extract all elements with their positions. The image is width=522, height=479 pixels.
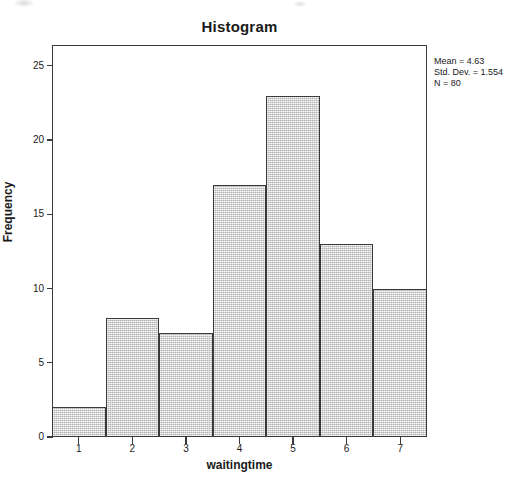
histogram-bar — [266, 96, 320, 438]
y-tick-mark — [47, 65, 53, 66]
plot-area — [52, 45, 427, 437]
x-tick-label: 5 — [281, 443, 305, 454]
y-tick-label: 10 — [4, 283, 44, 294]
y-tick-label: 0 — [4, 431, 44, 442]
x-tick-label: 3 — [174, 443, 198, 454]
x-tick-label: 2 — [120, 443, 144, 454]
x-tick-label: 6 — [335, 443, 359, 454]
stat-std-dev: Std. Dev. = 1.554 — [434, 67, 503, 78]
histogram-bar — [52, 407, 106, 437]
histogram-bar — [159, 333, 213, 437]
histogram-bar — [373, 289, 427, 437]
histogram-bar — [320, 244, 374, 437]
y-tick-label: 5 — [4, 357, 44, 368]
scan-artifact — [0, 0, 522, 14]
x-axis-title: waitingtime — [52, 458, 427, 472]
chart-title: Histogram — [52, 18, 427, 35]
x-tick-label: 1 — [67, 443, 91, 454]
x-tick-label: 4 — [228, 443, 252, 454]
stat-n: N = 80 — [434, 78, 503, 89]
statistics-annotation: Mean = 4.63 Std. Dev. = 1.554 N = 80 — [434, 56, 503, 89]
histogram-bar — [213, 185, 267, 437]
histogram-figure: Histogram 0510152025 Frequency 1234567 w… — [0, 0, 522, 479]
x-tick-label: 7 — [388, 443, 412, 454]
y-tick-mark — [47, 362, 53, 363]
y-axis-title: Frequency — [1, 142, 15, 282]
y-tick-label: 25 — [4, 60, 44, 71]
histogram-bar — [106, 318, 160, 437]
y-tick-mark — [47, 288, 53, 289]
y-tick-mark — [47, 436, 53, 437]
stat-mean: Mean = 4.63 — [434, 56, 503, 67]
y-tick-mark — [47, 214, 53, 215]
y-tick-mark — [47, 139, 53, 140]
